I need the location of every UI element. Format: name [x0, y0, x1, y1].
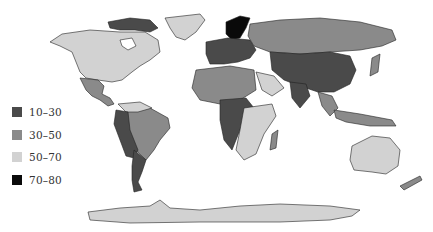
legend-label: 30–50 — [29, 129, 62, 141]
region-new-zealand — [400, 176, 422, 190]
legend-item-10-30: 10–30 — [12, 101, 62, 124]
legend-label: 70–80 — [29, 174, 62, 186]
region-russia — [248, 18, 396, 54]
map-legend: 10–30 30–50 50–70 70–80 — [12, 101, 62, 191]
region-mexico — [80, 78, 114, 106]
region-indonesia — [334, 110, 396, 126]
legend-label: 10–30 — [29, 106, 62, 118]
region-australia — [350, 136, 400, 174]
region-madagascar — [270, 130, 278, 150]
region-north-america — [50, 30, 160, 82]
legend-swatch — [12, 130, 22, 140]
region-china — [270, 52, 356, 92]
legend-label: 50–70 — [29, 151, 62, 163]
legend-swatch — [12, 175, 22, 185]
legend-item-30-50: 30–50 — [12, 124, 62, 147]
region-western-europe — [206, 38, 256, 64]
region-japan — [370, 54, 380, 76]
region-scandinavia — [226, 16, 250, 40]
legend-swatch — [12, 107, 22, 117]
region-antarctica — [88, 200, 360, 223]
legend-item-50-70: 50–70 — [12, 146, 62, 169]
region-greenland — [165, 14, 205, 40]
world-choropleth-map — [0, 0, 433, 232]
region-arctic-islands — [108, 18, 158, 32]
legend-item-70-80: 70–80 — [12, 169, 62, 192]
legend-swatch — [12, 152, 22, 162]
